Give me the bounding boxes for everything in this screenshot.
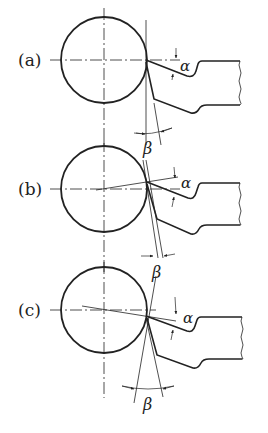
cutting-tool <box>147 182 240 234</box>
alpha-label-c: α <box>183 309 193 327</box>
cutting-tool <box>146 60 240 113</box>
panel-c: (c) α β <box>18 262 243 414</box>
beta-label-c: β <box>142 395 152 414</box>
panel-label-a: (a) <box>18 50 41 70</box>
beta-label-a: β <box>142 139 152 158</box>
cutting-tool <box>146 316 242 368</box>
alpha-label-a: α <box>180 57 190 75</box>
panel-label-b: (b) <box>18 179 42 199</box>
beta-label-b: β <box>151 263 161 282</box>
panel-b: (b) α β <box>18 140 241 282</box>
panel-label-c: (c) <box>18 300 41 320</box>
tool-angle-diagram: (a) α β (b) α <box>0 0 268 433</box>
tool-break-line <box>239 61 241 105</box>
alpha-label-b: α <box>181 174 191 192</box>
panel-a: (a) α β <box>18 8 241 158</box>
